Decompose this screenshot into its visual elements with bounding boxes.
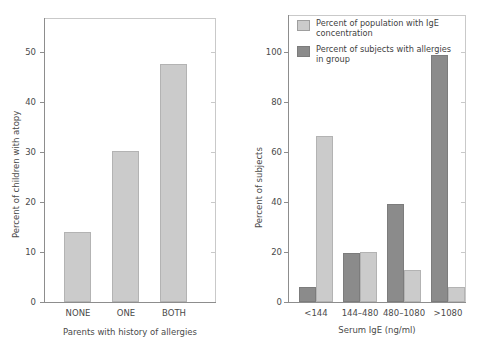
right-y-tick-mirror-80 (461, 102, 466, 103)
right-bar-allergies-lt144 (299, 287, 316, 302)
right-bar-population-gt1080 (448, 287, 465, 302)
right-y-tick-0 (284, 302, 288, 303)
right-y-tick-label-80: 80 (258, 98, 282, 107)
left-y-tick-label-10: 10 (16, 248, 36, 257)
left-y-tick-50 (40, 52, 44, 53)
left-y-tick-30 (40, 152, 44, 153)
left-y-tick-label-0: 0 (16, 298, 36, 307)
left-y-tick-40 (40, 102, 44, 103)
left-y-tick-label-40: 40 (16, 98, 36, 107)
right-y-axis-title: Percent of subjects (255, 147, 264, 228)
right-chart-panel: 0 20 40 60 80 100 <144 144–480 480–1080 … (239, 0, 478, 345)
right-y-tick-label-20: 20 (258, 248, 282, 257)
legend-item-population: Percent of population with IgE concentra… (297, 19, 467, 38)
right-y-tick-label-100: 100 (258, 48, 282, 57)
right-bar-population-480-1080 (404, 270, 421, 302)
left-chart-panel: 0 10 20 30 40 50 NONE ONE BOTH Parents w… (0, 0, 239, 345)
right-y-tick-60 (284, 152, 288, 153)
legend-swatch-dark-icon (297, 46, 310, 57)
right-cat-label-gt1080: >1080 (422, 309, 474, 318)
right-y-tick-label-0: 0 (258, 298, 282, 307)
left-cat-label-both: BOTH (148, 309, 200, 318)
right-bar-allergies-gt1080 (431, 55, 448, 302)
right-y-tick-20 (284, 252, 288, 253)
legend-label-population: Percent of population with IgE concentra… (316, 19, 439, 38)
right-bar-population-lt144 (316, 136, 333, 302)
right-bar-allergies-480-1080 (387, 204, 404, 302)
right-y-tick-mirror-60 (461, 152, 466, 153)
left-bar-none (64, 232, 91, 302)
left-y-tick-mirror-50 (211, 52, 216, 53)
right-x-axis-title: Serum IgE (ng/ml) (279, 326, 475, 335)
right-y-tick-100 (284, 52, 288, 53)
left-cat-label-none: NONE (52, 309, 104, 318)
left-bar-both (160, 64, 187, 302)
right-bar-population-144-480 (360, 252, 377, 302)
left-y-axis-title: Percent of children with atopy (12, 111, 21, 238)
left-y-tick-label-50: 50 (16, 48, 36, 57)
legend-label-allergies: Percent of subjects with allergies in gr… (316, 45, 451, 64)
right-bar-allergies-144-480 (343, 253, 360, 302)
left-y-tick-20 (40, 202, 44, 203)
right-y-tick-mirror-20 (461, 252, 466, 253)
right-y-tick-80 (284, 102, 288, 103)
legend-item-allergies: Percent of subjects with allergies in gr… (297, 45, 467, 64)
figure-canvas: 0 10 20 30 40 50 NONE ONE BOTH Parents w… (0, 0, 478, 345)
left-y-tick-mirror-30 (211, 152, 216, 153)
left-cat-label-one: ONE (100, 309, 152, 318)
left-y-axis (44, 18, 45, 303)
left-y-tick-mirror-20 (211, 202, 216, 203)
left-bar-one (112, 151, 139, 302)
right-y-axis (288, 15, 289, 303)
legend-swatch-light-icon (297, 20, 310, 31)
left-y-tick-mirror-40 (211, 102, 216, 103)
left-x-axis-title: Parents with history of allergies (30, 328, 230, 337)
right-y-tick-40 (284, 202, 288, 203)
left-y-tick-10 (40, 252, 44, 253)
right-chart-legend: Percent of population with IgE concentra… (297, 19, 467, 75)
left-x-axis (44, 302, 216, 303)
right-y-tick-mirror-40 (461, 202, 466, 203)
right-x-axis (288, 302, 466, 303)
left-y-tick-mirror-10 (211, 252, 216, 253)
left-y-tick-0 (40, 302, 44, 303)
